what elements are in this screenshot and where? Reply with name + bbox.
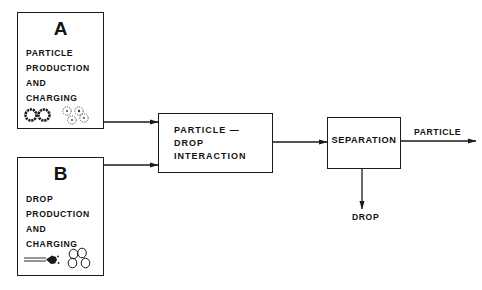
- separation-label: SEPARATION: [328, 135, 400, 145]
- output-particle-label: PARTICLE: [414, 127, 461, 137]
- block-b-line-1: DROP: [26, 192, 90, 207]
- block-a-letter: A: [18, 18, 103, 40]
- block-a-particle-production: A PARTICLE PRODUCTION AND CHARGING: [17, 12, 104, 129]
- solid-particles-icon: [23, 107, 57, 123]
- charged-particles-icon: [60, 105, 96, 127]
- interaction-line-3: INTERACTION: [174, 150, 247, 163]
- block-b-line-2: PRODUCTION: [26, 207, 90, 222]
- interaction-line-1: PARTICLE —: [174, 124, 247, 137]
- block-b-letter: B: [18, 163, 103, 185]
- block-b-drop-production: B DROP PRODUCTION AND CHARGING: [17, 157, 104, 276]
- block-b-line-3: AND: [26, 222, 90, 237]
- block-a-line-3: AND: [26, 76, 90, 91]
- block-a-line-2: PRODUCTION: [26, 61, 90, 76]
- output-drop-label: DROP: [352, 212, 379, 222]
- drops-icon: [66, 247, 96, 271]
- interaction-line-2: DROP: [174, 137, 247, 150]
- block-separation: SEPARATION: [327, 117, 401, 169]
- block-particle-drop-interaction: PARTICLE — DROP INTERACTION: [158, 113, 273, 173]
- block-a-line-1: PARTICLE: [26, 46, 90, 61]
- spray-nozzle-icon: [24, 253, 60, 267]
- block-a-line-4: CHARGING: [26, 91, 90, 106]
